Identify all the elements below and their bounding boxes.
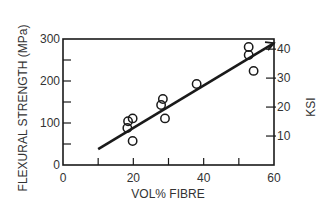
data-point-circle xyxy=(161,114,169,122)
plot-border xyxy=(63,39,274,165)
x-tick-label: 20 xyxy=(127,171,141,185)
data-point-circle xyxy=(128,137,136,145)
data-point-circle xyxy=(249,67,257,75)
plot-frame xyxy=(63,39,274,165)
y2-axis-title: KSI xyxy=(304,97,318,116)
y-axis-title: FLEXURAL STRENGTH (MPa) xyxy=(16,25,30,192)
x-tick-label: 0 xyxy=(60,171,67,185)
x-tick-label: 60 xyxy=(267,171,281,185)
data-point-circle xyxy=(157,101,165,109)
data-point-circle xyxy=(123,124,131,132)
y-tick-label: 100 xyxy=(40,116,60,130)
y2-tick-label: 40 xyxy=(277,42,291,56)
data-point-circle xyxy=(192,80,200,88)
x-axis-title: VOL% FIBRE xyxy=(131,187,204,201)
y-tick-label: 200 xyxy=(40,74,60,88)
flexural-strength-chart: 0204060010020030010203040 VOL% FIBRE FLE… xyxy=(0,0,322,209)
y-tick-label: 0 xyxy=(53,158,60,172)
data-point-circle xyxy=(128,114,136,122)
data-point-circle xyxy=(244,51,252,59)
x-tick-label: 40 xyxy=(197,171,211,185)
data-point-circle xyxy=(244,43,252,51)
y2-tick-label: 20 xyxy=(277,100,291,114)
y2-tick-label: 30 xyxy=(277,71,291,85)
y-tick-label: 300 xyxy=(40,32,60,46)
y2-tick-label: 10 xyxy=(277,129,291,143)
